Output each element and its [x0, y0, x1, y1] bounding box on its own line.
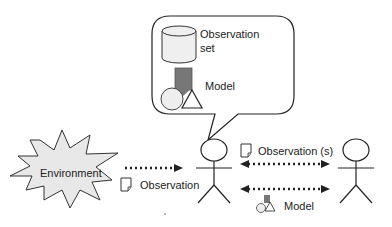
observations-bidirectional-arrow	[240, 160, 330, 168]
model-bidirectional-arrow	[240, 185, 330, 193]
observation-set-label-line2: set	[200, 42, 215, 55]
observation-arrow	[125, 164, 183, 172]
database-icon	[162, 26, 196, 63]
environment-label: Environment	[40, 167, 102, 180]
document-icon	[121, 178, 131, 191]
model-small-icon	[257, 195, 276, 213]
agent-1-stick-figure	[196, 139, 232, 203]
observation-edge-label: Observation	[140, 179, 199, 192]
model-edge-label: Model	[284, 200, 314, 213]
observations-edge-label: Observation (s)	[258, 145, 333, 158]
stray-dot	[164, 213, 166, 215]
model-label: Model	[205, 80, 235, 93]
agent-2-stick-figure	[338, 139, 374, 203]
document-icon-2	[241, 144, 251, 157]
diagram-canvas	[0, 0, 392, 227]
observation-set-label-line1: Observation	[200, 28, 259, 41]
